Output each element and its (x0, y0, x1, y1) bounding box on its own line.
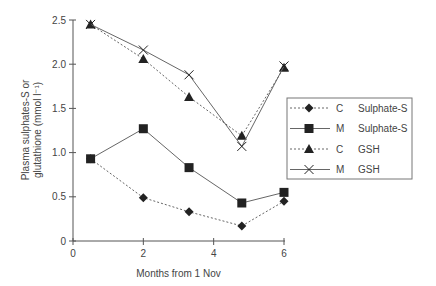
y-tick-label: 2.5 (52, 15, 66, 26)
legend-measure: Sulphate-S (358, 123, 408, 134)
y-tick-label: 0.5 (52, 191, 66, 202)
legend-measure: GSH (358, 144, 380, 155)
square-marker-icon (185, 163, 194, 172)
line-chart: 00.51.01.52.02.50246Months from 1 NovPla… (0, 0, 436, 286)
y-axis-title: Plasma sulphates-S orglutathione (mmol l… (20, 79, 43, 180)
x-marker-icon (237, 142, 246, 151)
legend-group: C (336, 103, 343, 114)
y-tick-label: 0 (60, 236, 66, 247)
x-axis-title: Months from 1 Nov (136, 268, 220, 279)
diamond-marker-icon (185, 207, 194, 216)
legend-group: C (336, 144, 343, 155)
series-layer (86, 19, 289, 230)
legend-measure: GSH (358, 164, 380, 175)
square-marker-icon (305, 124, 314, 133)
legend-group: M (336, 123, 344, 134)
triangle-marker-icon (184, 92, 194, 101)
x-tick-label: 4 (211, 248, 217, 259)
diamond-marker-icon (280, 197, 289, 206)
y-tick-label: 1.5 (52, 103, 66, 114)
x-tick-label: 0 (70, 248, 76, 259)
diamond-marker-icon (139, 193, 148, 202)
x-marker-icon (185, 70, 194, 79)
square-marker-icon (139, 124, 148, 133)
triangle-marker-icon (138, 54, 148, 63)
legend-measure: Sulphate-S (358, 103, 408, 114)
triangle-marker-icon (279, 63, 289, 72)
series-c-gsh (86, 19, 289, 139)
series-m-gsh (86, 20, 288, 151)
diamond-marker-icon (237, 221, 246, 230)
y-tick-label: 2.0 (52, 59, 66, 70)
y-tick-label: 1.0 (52, 147, 66, 158)
series-line (91, 24, 284, 146)
legend: CSulphate-SMSulphate-SCGSHMGSH (287, 98, 412, 179)
x-marker-icon (139, 46, 148, 55)
square-marker-icon (86, 154, 95, 163)
legend-group: M (336, 164, 344, 175)
series-m-sulphate-s (86, 124, 288, 207)
x-tick-label: 2 (141, 248, 147, 259)
series-line (91, 24, 284, 135)
square-marker-icon (280, 188, 289, 197)
axes: 00.51.01.52.02.50246Months from 1 NovPla… (20, 15, 287, 280)
x-tick-label: 6 (281, 248, 287, 259)
square-marker-icon (237, 198, 246, 207)
triangle-marker-icon (237, 131, 247, 140)
